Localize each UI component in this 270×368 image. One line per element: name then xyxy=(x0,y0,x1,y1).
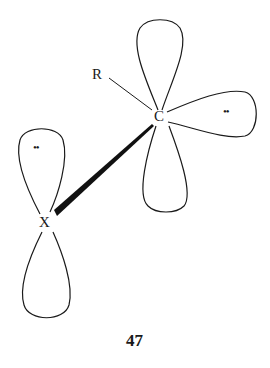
substituent-label-r: R xyxy=(92,67,102,82)
carbon-atom-label: C xyxy=(154,109,164,124)
x-lone-pair: •• xyxy=(33,142,39,153)
r-bond-line xyxy=(109,78,152,110)
carbon-lone-pair: •• xyxy=(223,106,229,117)
x-lower-lobe xyxy=(23,232,71,318)
carbon-top-lobe xyxy=(137,20,183,110)
figure-caption: 47 xyxy=(126,332,143,349)
heteroatom-label-x: X xyxy=(39,215,50,230)
x-upper-lobe xyxy=(19,129,65,214)
carbon-right-lobe xyxy=(167,91,256,137)
wedge-bond xyxy=(54,124,154,216)
orbital-diagram xyxy=(0,0,270,368)
carbon-bottom-lobe xyxy=(143,126,187,212)
